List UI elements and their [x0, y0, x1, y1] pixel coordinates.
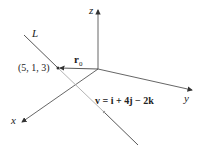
direction-vector-marker: [103, 111, 105, 113]
z-axis-label: z: [89, 5, 93, 16]
line-L-lower: [104, 112, 138, 145]
r0-subscript: 0: [79, 60, 83, 68]
y-axis-label: y: [184, 93, 189, 104]
point-label: (5, 1, 3): [18, 63, 50, 73]
x-axis-label: x: [11, 115, 16, 126]
diagram-canvas: [0, 0, 201, 156]
line-label: L: [32, 28, 38, 39]
direction-vector-label: v = i + 4j − 2k: [95, 96, 154, 106]
y-axis: [98, 69, 192, 90]
r0-label: r0: [74, 54, 82, 68]
point-P0: [57, 67, 60, 70]
